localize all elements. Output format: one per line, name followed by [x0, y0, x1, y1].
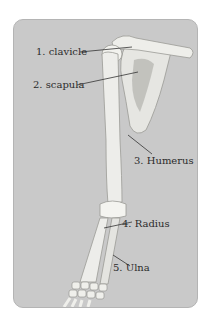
humerus-bone — [102, 52, 122, 204]
wrist-bones — [64, 282, 107, 307]
label-humerus: 3. Humerus — [134, 155, 194, 167]
label-scapula: 2. scapula — [33, 79, 84, 91]
label-radius: 4. Radius — [122, 218, 170, 230]
diagram-card: 1. clavicle 2. scapula 3. Humerus 4. Rad… — [13, 19, 198, 308]
label-clavicle: 1. clavicle — [36, 46, 87, 58]
label-ulna: 5. Ulna — [113, 262, 150, 274]
